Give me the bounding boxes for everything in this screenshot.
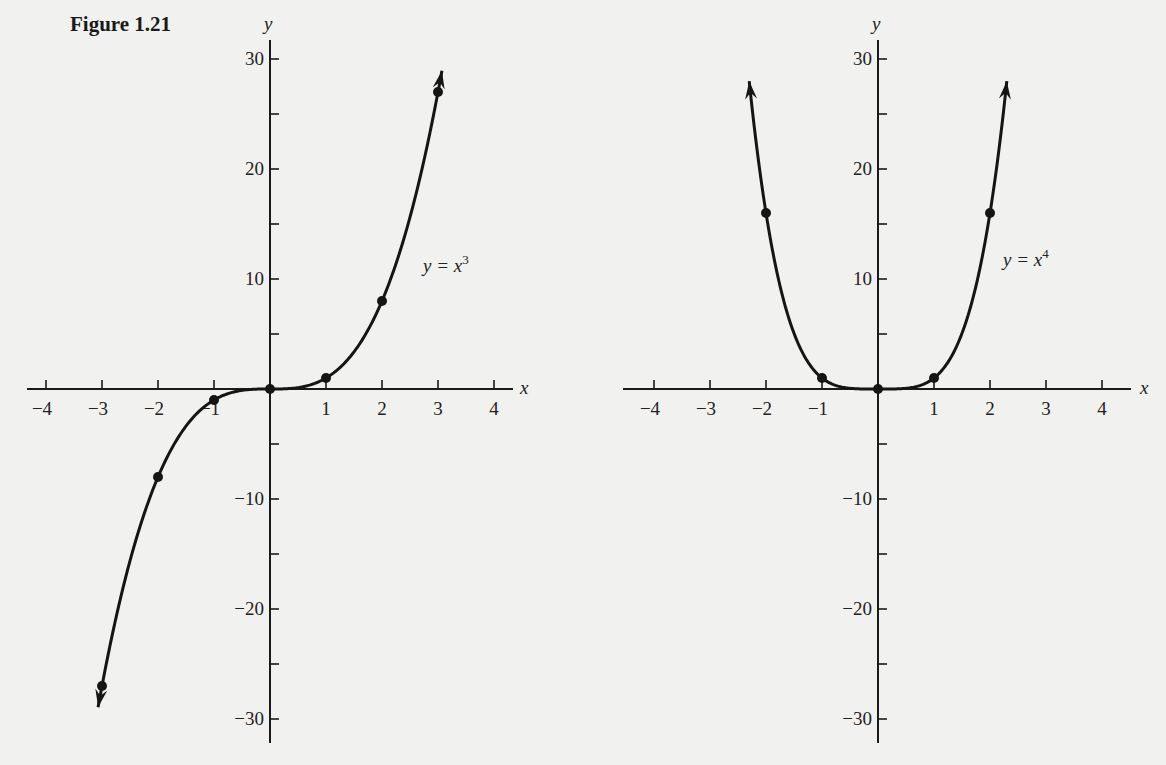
y-tick-label: 30 [245, 48, 264, 69]
y-axis-label: y [870, 13, 881, 34]
x-tick-label: −1 [808, 398, 828, 419]
x-tick-label: −4 [640, 398, 661, 419]
data-point [817, 373, 827, 383]
chart-cubic: xy−4−3−2−11234−30−20−10102030y = x3 [27, 13, 529, 743]
x-tick-label: −4 [32, 398, 53, 419]
equation-base: y = x [1001, 249, 1043, 270]
x-tick-label: 2 [985, 398, 995, 419]
data-point [153, 472, 163, 482]
x-tick-label: 4 [1097, 398, 1107, 419]
y-tick-label: 10 [245, 268, 264, 289]
x-tick-label: −3 [88, 398, 108, 419]
data-point [929, 373, 939, 383]
data-point [985, 208, 995, 218]
x-axis-label: x [519, 377, 529, 398]
x-tick-label: 1 [321, 398, 331, 419]
y-tick-label: −20 [842, 598, 872, 619]
y-tick-label: 20 [245, 158, 264, 179]
data-point [761, 208, 771, 218]
y-tick-label: −10 [234, 488, 264, 509]
y-tick-label: −20 [234, 598, 264, 619]
y-tick-label: 20 [853, 158, 872, 179]
data-point [321, 373, 331, 383]
data-point [873, 384, 883, 394]
data-point [265, 384, 275, 394]
equation-exponent: 3 [462, 252, 469, 267]
x-tick-label: 4 [489, 398, 499, 419]
y-tick-label: 10 [853, 268, 872, 289]
equation-label: y = x3 [421, 252, 469, 276]
y-axis-label: y [262, 13, 273, 34]
data-point [433, 87, 443, 97]
chart-quartic: xy−4−3−2−11234−30−20−10102030y = x4 [623, 13, 1149, 743]
y-tick-label: −30 [234, 708, 264, 729]
x-axis-label: x [1139, 377, 1149, 398]
y-tick-label: −10 [842, 488, 872, 509]
chart-canvas: xy−4−3−2−11234−30−20−10102030y = x3xy−4−… [0, 0, 1166, 765]
data-point [209, 395, 219, 405]
x-tick-label: −3 [696, 398, 716, 419]
y-tick-label: 30 [853, 48, 872, 69]
x-tick-label: −2 [752, 398, 772, 419]
x-tick-label: −2 [144, 398, 164, 419]
x-tick-label: 3 [433, 398, 443, 419]
data-point [97, 681, 107, 691]
data-point [377, 296, 387, 306]
equation-exponent: 4 [1042, 246, 1049, 261]
x-tick-label: 1 [929, 398, 939, 419]
x-tick-label: 3 [1041, 398, 1051, 419]
equation-base: y = x [421, 255, 463, 276]
x-tick-label: 2 [377, 398, 387, 419]
y-tick-label: −30 [842, 708, 872, 729]
equation-label: y = x4 [1001, 246, 1049, 270]
